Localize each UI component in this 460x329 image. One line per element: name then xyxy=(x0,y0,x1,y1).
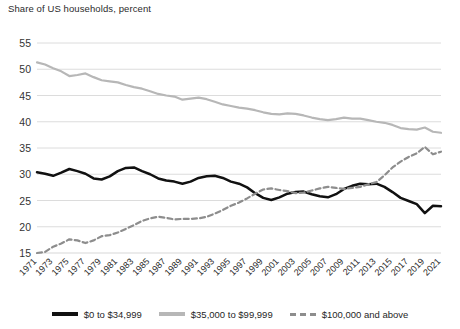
y-axis-tick-label: 45 xyxy=(19,90,31,102)
x-axis-tick-label: 2005 xyxy=(292,256,313,277)
chart-plot-area: 152025303540455055 197119731975197719791… xyxy=(0,0,460,303)
x-axis-tick-label: 1985 xyxy=(130,256,151,277)
legend-swatch-dashed-line-icon xyxy=(290,313,316,316)
x-axis-tick-labels: 1971197319751977197919811983198519871989… xyxy=(17,256,442,277)
x-axis-tick-label: 2009 xyxy=(324,256,345,277)
y-axis-tick-label: 30 xyxy=(19,168,31,180)
y-axis-tick-label: 55 xyxy=(19,37,31,49)
x-axis-tick-label: 1991 xyxy=(179,256,200,277)
x-axis-tick-label: 1993 xyxy=(195,256,216,277)
x-axis-tick-label: 1983 xyxy=(114,256,135,277)
x-axis-tick-label: 2017 xyxy=(389,256,410,277)
chart-container: Share of US households, percent 15202530… xyxy=(0,0,460,329)
x-axis-tick-label: 1973 xyxy=(33,256,54,277)
y-axis-tick-label: 50 xyxy=(19,63,31,75)
x-axis-tick-label: 1975 xyxy=(49,256,70,277)
x-axis-tick-label: 1997 xyxy=(227,256,248,277)
x-axis-tick-label: 1979 xyxy=(82,256,103,277)
x-axis-tick-label: 2007 xyxy=(308,256,329,277)
gridlines xyxy=(37,43,441,253)
x-axis-tick-label: 1989 xyxy=(163,256,184,277)
x-axis-tick-label: 2015 xyxy=(373,256,394,277)
legend-swatch-line-icon xyxy=(52,312,78,315)
data-series-lines xyxy=(37,62,441,253)
legend-label: $100,000 and above xyxy=(322,309,409,320)
x-axis-tick-label: 1981 xyxy=(98,256,119,277)
x-axis-tick-label: 2011 xyxy=(341,256,362,277)
x-axis-tick-label: 1977 xyxy=(66,256,87,277)
x-axis-tick-label: 2003 xyxy=(276,256,297,277)
y-axis-tick-label: 20 xyxy=(19,221,31,233)
legend-item-low-income[interactable]: $0 to $34,999 xyxy=(52,309,142,320)
x-axis-tick-label: 2021 xyxy=(421,256,442,277)
legend-item-high-income[interactable]: $100,000 and above xyxy=(290,309,409,320)
legend-label: $0 to $34,999 xyxy=(84,309,142,320)
x-axis-tick-label: 2001 xyxy=(260,256,281,277)
x-axis-tick-label: 2013 xyxy=(357,256,378,277)
x-axis-tick-label: 1987 xyxy=(146,256,167,277)
legend-label: $35,000 to $99,999 xyxy=(191,309,273,320)
series-line xyxy=(37,147,441,253)
series-line xyxy=(37,62,441,132)
x-axis-tick-label: 1971 xyxy=(17,256,38,277)
x-axis-tick-label: 1995 xyxy=(211,256,232,277)
legend-swatch-line-icon xyxy=(159,312,185,315)
y-axis-tick-label: 35 xyxy=(19,142,31,154)
chart-legend: $0 to $34,999 $35,000 to $99,999 $100,00… xyxy=(0,303,460,325)
x-axis-tick-label: 1999 xyxy=(243,256,264,277)
y-axis-tick-labels: 152025303540455055 xyxy=(19,37,31,259)
y-axis-tick-label: 40 xyxy=(19,116,31,128)
legend-item-middle-income[interactable]: $35,000 to $99,999 xyxy=(159,309,273,320)
y-axis-tick-label: 25 xyxy=(19,195,31,207)
x-axis-tick-label: 2019 xyxy=(405,256,426,277)
